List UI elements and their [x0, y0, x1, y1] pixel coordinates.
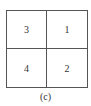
cell-bottom-left: 4	[7, 49, 47, 87]
cell-top-right: 1	[47, 11, 87, 49]
cell-bottom-right: 2	[47, 49, 87, 87]
quadrant-grid: 3 1 4 2	[6, 10, 88, 88]
figure-caption: (c)	[0, 91, 91, 102]
cell-top-left: 3	[7, 11, 47, 49]
